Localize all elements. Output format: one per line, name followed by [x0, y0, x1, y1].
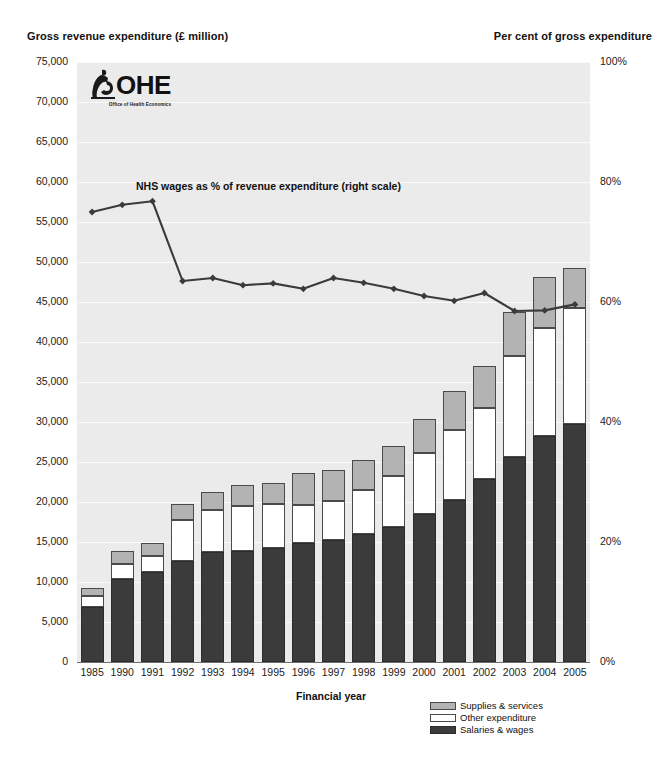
- line-marker-diamond-icon: [421, 293, 428, 300]
- legend-label: Other expenditure: [460, 712, 536, 723]
- right-axis-tick-label: 20%: [600, 535, 660, 547]
- line-marker-diamond-icon: [541, 307, 548, 314]
- x-axis-tick-label: 2005: [555, 666, 595, 678]
- line-path: [92, 201, 575, 311]
- ohe-figure-icon: [88, 68, 118, 102]
- left-axis-tick-label: 45,000: [6, 295, 68, 307]
- line-marker-diamond-icon: [179, 278, 186, 285]
- legend-item[interactable]: Salaries & wages: [430, 724, 543, 735]
- left-axis-tick-label: 55,000: [6, 215, 68, 227]
- left-axis-tick-label: 75,000: [6, 55, 68, 67]
- line-series-layer: [77, 62, 590, 662]
- line-marker-diamond-icon: [119, 201, 126, 208]
- left-axis-tick-label: 20,000: [6, 495, 68, 507]
- x-axis-title: Financial year: [0, 690, 662, 702]
- line-marker-diamond-icon: [270, 280, 277, 287]
- legend-swatch-other: [430, 714, 456, 722]
- left-axis-tick-label: 0: [6, 655, 68, 667]
- line-marker-diamond-icon: [89, 209, 96, 216]
- line-series-annotation: NHS wages as % of revenue expenditure (r…: [136, 180, 401, 192]
- left-axis-tick-label: 35,000: [6, 375, 68, 387]
- left-axis-tick-label: 65,000: [6, 135, 68, 147]
- line-marker-diamond-icon: [390, 285, 397, 292]
- line-marker-diamond-icon: [209, 275, 216, 282]
- x-axis-line: [77, 662, 590, 663]
- right-axis-tick-label: 80%: [600, 175, 660, 187]
- legend-label: Supplies & services: [460, 700, 543, 711]
- right-axis-tick-label: 40%: [600, 415, 660, 427]
- left-axis-tick-label: 5,000: [6, 615, 68, 627]
- left-axis-ticks: 05,00010,00015,00020,00025,00030,00035,0…: [6, 0, 68, 768]
- line-marker-diamond-icon: [240, 282, 247, 289]
- legend-item[interactable]: Supplies & services: [430, 700, 543, 711]
- legend-swatch-salaries: [430, 726, 456, 734]
- line-marker-diamond-icon: [360, 279, 367, 286]
- right-axis-tick-label: 0%: [600, 655, 660, 667]
- percentage-line-series: [77, 62, 590, 662]
- ohe-subtitle: Office of Health Economics: [88, 102, 192, 107]
- left-axis-tick-label: 60,000: [6, 175, 68, 187]
- right-axis-tick-label: 60%: [600, 295, 660, 307]
- line-marker-diamond-icon: [451, 297, 458, 304]
- line-marker-diamond-icon: [330, 275, 337, 282]
- line-marker-diamond-icon: [149, 198, 156, 205]
- left-axis-tick-label: 40,000: [6, 335, 68, 347]
- line-marker-diamond-icon: [572, 301, 579, 308]
- left-axis-tick-label: 70,000: [6, 95, 68, 107]
- legend-item[interactable]: Other expenditure: [430, 712, 543, 723]
- left-axis-tick-label: 25,000: [6, 455, 68, 467]
- right-axis-tick-label: 100%: [600, 55, 660, 67]
- right-axis-ticks: 0%20%40%60%80%100%: [600, 0, 660, 768]
- legend-swatch-supplies: [430, 702, 456, 710]
- ohe-wordmark: OHE: [116, 72, 171, 98]
- legend-label: Salaries & wages: [460, 724, 533, 735]
- legend: Supplies & servicesOther expenditureSala…: [430, 700, 543, 736]
- left-axis-tick-label: 10,000: [6, 575, 68, 587]
- left-axis-tick-label: 15,000: [6, 535, 68, 547]
- left-axis-tick-label: 50,000: [6, 255, 68, 267]
- chart-canvas: Gross revenue expenditure (£ million) Pe…: [0, 0, 662, 768]
- line-marker-diamond-icon: [300, 285, 307, 292]
- x-axis-tick-labels: 1985199019911992199319941995199619971998…: [77, 666, 590, 686]
- ohe-logo: OHE Office of Health Economics: [88, 68, 192, 114]
- left-axis-tick-label: 30,000: [6, 415, 68, 427]
